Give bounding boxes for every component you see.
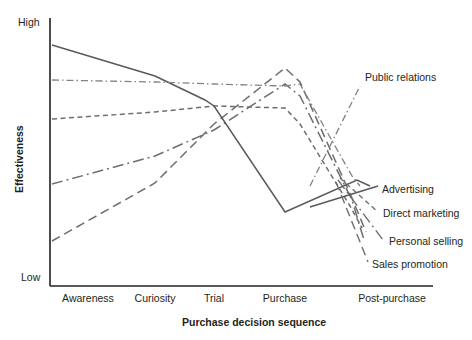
y-axis-high-label: High xyxy=(18,17,40,28)
x-tick-label-post-purchase: Post-purchase xyxy=(347,293,437,304)
leader-line-public-relations xyxy=(310,86,360,186)
y-axis-low-label: Low xyxy=(21,272,40,283)
series-line-advertising xyxy=(52,45,370,212)
x-tick-label-curiosity: Curiosity xyxy=(126,293,184,304)
series-label-sales-promotion: Sales promotion xyxy=(372,259,448,270)
leader-line-personal-selling xyxy=(338,180,383,240)
x-tick-label-trial: Trial xyxy=(192,293,236,304)
x-tick-label-purchase: Purchase xyxy=(253,293,317,304)
x-axis-title: Purchase decision sequence xyxy=(182,317,326,328)
chart-container: High Low Effectiveness Awareness Curiosi… xyxy=(0,0,472,340)
series-label-personal-selling: Personal selling xyxy=(389,236,463,247)
chart-plot-area xyxy=(0,0,472,340)
series-line-direct-marketing xyxy=(52,106,362,228)
series-line-personal-selling xyxy=(52,84,364,240)
series-label-advertising: Advertising xyxy=(382,184,434,195)
series-label-public-relations: Public relations xyxy=(365,72,436,83)
x-tick-label-awareness: Awareness xyxy=(58,293,118,304)
series-label-direct-marketing: Direct marketing xyxy=(383,208,459,219)
y-axis-title: Effectiveness xyxy=(14,125,25,193)
